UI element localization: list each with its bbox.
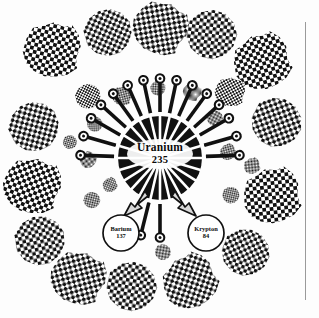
barium-nucleus [103,215,139,251]
krypton-nucleus [188,215,224,251]
fission-arrow-to-barium [124,191,148,216]
diagram-canvas [0,0,319,318]
uranium-nucleus [118,116,202,201]
fission-diagram: Uranium 235 Barium 137 Krypton 84 [0,0,319,318]
fission-arrow-to-krypton [172,191,196,216]
